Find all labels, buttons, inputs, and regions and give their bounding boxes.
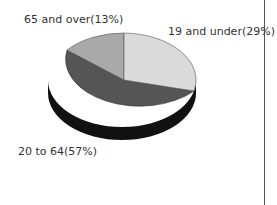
label-65-and-over: 65 and over(13%) bbox=[24, 13, 123, 26]
label-19-and-under: 19 and under(29%) bbox=[168, 25, 275, 38]
label-20-to-64: 20 to 64(57%) bbox=[18, 145, 97, 158]
